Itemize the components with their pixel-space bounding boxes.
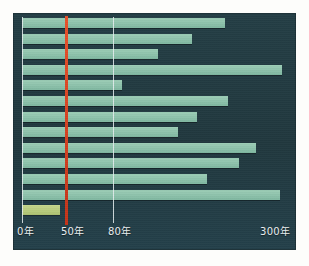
bar-1 [22, 18, 225, 28]
reference-line-50 [65, 16, 68, 225]
bar-12 [22, 190, 280, 200]
gridline-0 [22, 17, 23, 223]
bar-2 [22, 34, 192, 44]
x-axis-labels: 0年50年80年300年 [13, 226, 296, 240]
chart-panel: 0年50年80年300年 [13, 13, 296, 250]
bar-10 [22, 158, 239, 168]
bar-5 [22, 80, 122, 90]
axis-tick-label-50: 50年 [61, 226, 84, 237]
bar-11 [22, 174, 207, 184]
page-root: 0年50年80年300年 [0, 0, 309, 266]
bar-13 [22, 205, 60, 215]
bar-9 [22, 143, 256, 153]
axis-tick-label-0: 0年 [17, 226, 34, 237]
gridline-80 [113, 17, 114, 223]
axis-tick-label-300: 300年 [260, 226, 290, 237]
plot-area [13, 13, 296, 250]
bar-3 [22, 49, 158, 59]
bar-4 [22, 65, 282, 75]
bar-6 [22, 96, 228, 106]
axis-tick-label-80: 80年 [108, 226, 131, 237]
bar-7 [22, 112, 197, 122]
bar-8 [22, 127, 178, 137]
